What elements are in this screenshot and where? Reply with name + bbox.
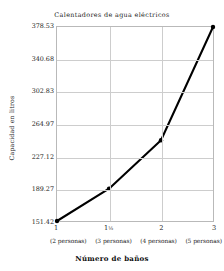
- gridline-horizontal: [57, 92, 213, 93]
- x-axis-sub-label: (4 personas): [140, 238, 177, 244]
- series-line-chart: [57, 27, 213, 221]
- x-axis-sub-label: (5 personas): [185, 238, 222, 244]
- plot-inner: [57, 27, 213, 221]
- plot-area: [56, 26, 214, 222]
- gridline-horizontal: [57, 190, 213, 191]
- gridline-vertical: [162, 27, 163, 221]
- x-axis-tick-label: 3: [212, 224, 216, 232]
- x-axis-tick-label: 1½: [104, 224, 113, 232]
- y-axis-title: Capacidad en litros: [4, 78, 18, 178]
- series-line: [57, 27, 213, 221]
- chart-figure: Calentadores de agua eléctricos Capacida…: [0, 0, 224, 271]
- x-axis-tick-labels: 11½23: [56, 224, 214, 237]
- data-point-marker: [55, 219, 59, 223]
- gridline-horizontal: [57, 60, 213, 61]
- x-axis-tick-label: 2: [159, 224, 163, 232]
- x-axis-sub-label: (3 personas): [95, 238, 132, 244]
- y-axis-tick-labels: 151.42189.27227.12264.97302.83340.68378.…: [18, 26, 54, 222]
- y-axis-tick-label: 227.12: [20, 153, 54, 161]
- x-axis-sub-labels: (2 personas)(3 personas)(4 personas)(5 p…: [50, 238, 222, 250]
- gridline-vertical: [110, 27, 111, 221]
- y-axis-tick-label: 302.83: [20, 87, 54, 95]
- x-axis-tick-label: 1: [54, 224, 58, 232]
- y-axis-title-text: Capacidad en litros: [8, 96, 15, 161]
- y-axis-tick-label: 189.27: [20, 185, 54, 193]
- y-axis-tick-label: 340.68: [20, 55, 54, 63]
- gridline-horizontal: [57, 158, 213, 159]
- data-point-marker: [211, 25, 215, 29]
- y-axis-tick-label: 151.42: [20, 218, 54, 226]
- x-axis-title: Número de baños: [0, 254, 224, 263]
- chart-title: Calentadores de agua eléctricos: [0, 11, 224, 19]
- gridline-horizontal: [57, 125, 213, 126]
- y-axis-tick-label: 264.97: [20, 120, 54, 128]
- y-axis-tick-label: 378.53: [20, 22, 54, 30]
- x-axis-sub-label: (2 personas): [50, 238, 87, 244]
